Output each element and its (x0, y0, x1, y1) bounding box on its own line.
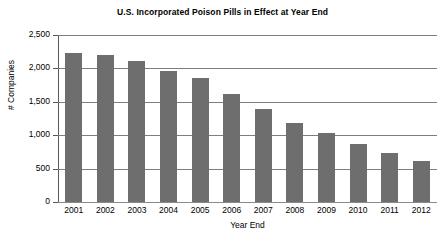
bar-2001 (65, 53, 82, 202)
x-tick-label-2004: 2004 (153, 205, 185, 215)
y-tick-label-0: 0 (0, 196, 50, 206)
x-tick-label-2010: 2010 (342, 205, 374, 215)
x-tick-label-2011: 2011 (374, 205, 406, 215)
y-tick-label-2500: 2,500 (0, 29, 50, 39)
gridline-1000 (58, 135, 437, 136)
x-tick-label-2002: 2002 (89, 205, 121, 215)
bar-2007 (255, 109, 272, 202)
x-tick-label-2008: 2008 (279, 205, 311, 215)
x-tick-label-2001: 2001 (58, 205, 90, 215)
x-tick-label-2005: 2005 (184, 205, 216, 215)
y-tick-label-1500: 1,500 (0, 96, 50, 106)
y-tick-label-1000: 1,000 (0, 129, 50, 139)
x-axis-title: Year End (58, 220, 437, 230)
y-tick-label-500: 500 (0, 163, 50, 173)
plot-area (58, 35, 437, 202)
bar-2002 (97, 55, 114, 202)
x-tick-label-2012: 2012 (405, 205, 437, 215)
gridline-2500 (58, 35, 437, 36)
bar-2008 (286, 123, 303, 202)
bar-2010 (350, 144, 367, 202)
bar-2012 (413, 161, 430, 202)
gridline-2000 (58, 68, 437, 69)
bar-2004 (160, 71, 177, 202)
x-tick-label-2009: 2009 (310, 205, 342, 215)
bar-2011 (381, 153, 398, 202)
gridline-0 (58, 202, 437, 203)
chart-title: U.S. Incorporated Poison Pills in Effect… (0, 7, 445, 17)
poison-pills-bar-chart: U.S. Incorporated Poison Pills in Effect… (0, 0, 445, 245)
bar-2006 (223, 94, 240, 202)
gridline-1500 (58, 102, 437, 103)
bar-2003 (128, 61, 145, 202)
y-axis-title: # Companies (6, 40, 16, 130)
bar-2009 (318, 133, 335, 202)
x-tick-label-2007: 2007 (247, 205, 279, 215)
bar-2005 (192, 78, 209, 202)
x-tick-label-2006: 2006 (216, 205, 248, 215)
y-tick-label-2000: 2,000 (0, 62, 50, 72)
x-tick-label-2003: 2003 (121, 205, 153, 215)
